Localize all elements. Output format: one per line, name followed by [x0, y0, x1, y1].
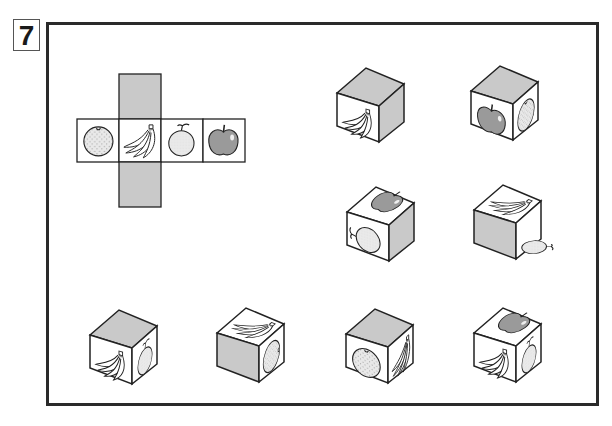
orange-icon: [84, 127, 113, 156]
cube-option-d[interactable]: [474, 185, 553, 259]
puzzle-canvas: [0, 0, 612, 426]
net-face-bottom-gray: [119, 162, 161, 207]
cube-option-h[interactable]: [474, 308, 541, 382]
cube-option-e[interactable]: [90, 310, 157, 384]
cube-option-c[interactable]: [347, 187, 414, 261]
cube-option-f[interactable]: [217, 308, 284, 382]
cube-option-g[interactable]: [346, 309, 413, 383]
cube-option-b[interactable]: [471, 66, 538, 140]
cube-option-a[interactable]: [337, 68, 404, 142]
net-face-top-gray: [119, 74, 161, 119]
